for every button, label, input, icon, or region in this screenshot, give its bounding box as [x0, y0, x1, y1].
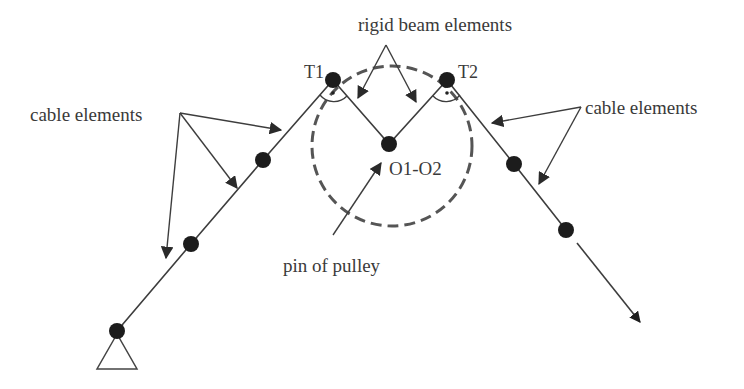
cable-left-leader-1	[180, 113, 281, 130]
cable-right-leader-1	[492, 107, 581, 123]
load-arrow	[577, 243, 640, 322]
center-label: O1-O2	[389, 158, 442, 179]
cable-right-leader-2	[539, 107, 581, 184]
angle-arc-t1	[320, 95, 347, 102]
t1-label: T1	[304, 62, 324, 82]
left-cable	[117, 80, 333, 331]
angle-dot-t1	[331, 91, 335, 95]
right-cable	[447, 80, 566, 230]
cable-left-leader-2	[180, 113, 237, 188]
node-support	[109, 323, 125, 339]
rigid-beam-label: rigid beam elements	[358, 14, 512, 35]
cable-left-leader-3	[166, 113, 180, 258]
t2-label: T2	[458, 62, 478, 82]
node-right-2	[558, 222, 574, 238]
node-o1-o2	[381, 136, 397, 152]
angle-dot-t2	[445, 91, 449, 95]
node-right-1	[506, 156, 522, 172]
rigid-beam-leader-right	[386, 45, 416, 102]
node-left-2	[183, 236, 199, 252]
pulley-cable-diagram: rigid beam elements cable elements cable…	[0, 0, 744, 389]
cable-left-label: cable elements	[30, 104, 142, 125]
fixed-support-icon	[97, 334, 137, 369]
node-t1	[325, 72, 341, 88]
node-t2	[439, 72, 455, 88]
pin-label: pin of pulley	[283, 255, 381, 276]
rigid-beams	[333, 80, 447, 144]
node-left-3	[255, 152, 271, 168]
cable-right-label: cable elements	[585, 97, 697, 118]
